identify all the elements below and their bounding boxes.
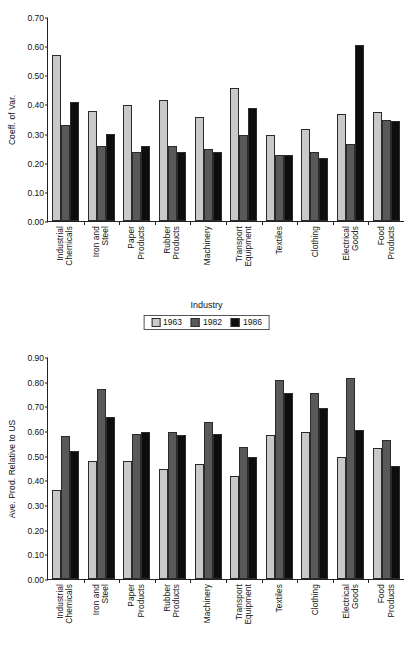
bar-group [48, 18, 84, 221]
y-axis-tick-mark [45, 105, 48, 106]
bar-group [226, 358, 262, 579]
x-axis-category-label-line: Products [172, 226, 180, 260]
y-axis-tick-mark [45, 76, 48, 77]
bar-groups-top [48, 18, 404, 221]
x-axis-category-label-line: Electrical [342, 584, 350, 619]
x-axis-category-label: TransportEquipment [226, 226, 262, 298]
x-axis-category-label-line: Steel [101, 584, 109, 603]
x-axis-title-top: Industry [0, 300, 413, 310]
x-axis-group-separator [226, 579, 227, 583]
bar-1982 [239, 135, 248, 221]
bar-1982 [346, 378, 355, 579]
x-axis-group-separator [190, 579, 191, 583]
x-axis-category-label-line: Textiles [275, 226, 283, 254]
x-axis-category-label: FoodProducts [368, 584, 404, 656]
x-axis-category-label-line: Clothing [311, 226, 319, 257]
x-axis-category-label: RubberProducts [154, 226, 190, 298]
x-axis-category-label: PaperProducts [118, 584, 154, 656]
x-axis-category-label: PaperProducts [118, 226, 154, 298]
x-axis-category-label-line: Iron and [92, 226, 100, 257]
x-axis-category-label-line: Iron and [92, 584, 100, 615]
bar-1982 [346, 144, 355, 221]
y-axis-tick-mark [45, 163, 48, 164]
x-axis-category-label-line: Equipment [244, 226, 252, 267]
y-axis-tick-mark [45, 47, 48, 48]
bar-1982 [382, 120, 391, 221]
x-axis-category-label: Machinery [190, 584, 226, 656]
bar-group [262, 358, 298, 579]
bar-1986 [319, 158, 328, 221]
x-axis-category-label: IndustrialChemicals [47, 584, 83, 656]
x-axis-category-label-line: Products [137, 584, 145, 618]
bar-group [333, 358, 369, 579]
bar-1986 [391, 121, 400, 221]
bar-group [226, 18, 262, 221]
x-axis-group-separator [297, 579, 298, 583]
y-axis-title-bottom: Ave. Prod. Relative to US [7, 420, 17, 519]
x-axis-group-separator [262, 221, 263, 225]
bar-1963 [266, 135, 275, 221]
x-axis-category-label-line: Clothing [311, 584, 319, 615]
x-axis-category-label: Iron andSteel [83, 226, 119, 298]
x-axis-group-separator [155, 221, 156, 225]
x-axis-category-label-line: Steel [101, 226, 109, 245]
y-axis-tick-mark [45, 407, 48, 408]
x-axis-category-label-line: Equipment [244, 584, 252, 625]
bar-group [119, 358, 155, 579]
bar-1982 [97, 146, 106, 221]
bar-1982 [275, 380, 284, 579]
bar-1986 [70, 451, 79, 579]
x-axis-category-label-line: Products [172, 584, 180, 618]
bar-1982 [97, 389, 106, 579]
bar-group [84, 358, 120, 579]
bar-group [190, 18, 226, 221]
bar-group [155, 18, 191, 221]
x-axis-category-label-line: Rubber [163, 226, 171, 254]
x-axis-category-label-line: Industrial [56, 226, 64, 261]
figure-page: Coeff. of Var. 0.000.100.200.300.400.500… [0, 0, 413, 656]
x-axis-category-label: ElectricalGoods [333, 226, 369, 298]
chart-ave-prod-relative-to-us: Ave. Prod. Relative to US 0.000.100.200.… [0, 326, 413, 656]
bar-group [368, 358, 404, 579]
x-axis-group-separator [84, 221, 85, 225]
bar-1986 [70, 102, 79, 221]
bar-1963 [88, 461, 97, 579]
plot-area-bottom: 0.000.100.200.300.400.500.600.700.800.90 [47, 358, 404, 580]
bar-1986 [141, 146, 150, 221]
y-axis-tick-mark [45, 456, 48, 457]
x-axis-category-label-line: Machinery [203, 226, 211, 265]
x-axis-category-label-line: Rubber [163, 584, 171, 612]
x-axis-category-label: ElectricalGoods [333, 584, 369, 656]
x-axis-category-label-line: Products [137, 226, 145, 260]
x-axis-category-label-line: Chemicals [65, 584, 73, 624]
y-axis-title-top: Coeff. of Var. [7, 95, 17, 145]
bar-1963 [159, 469, 168, 579]
x-axis-category-label: Clothing [297, 584, 333, 656]
x-axis-group-separator [84, 579, 85, 583]
x-axis-group-separator [119, 221, 120, 225]
bar-1986 [177, 435, 186, 579]
bar-1986 [213, 152, 222, 221]
x-axis-category-label-line: Industrial [56, 584, 64, 619]
x-axis-group-separator [262, 579, 263, 583]
x-axis-category-label-line: Food [377, 226, 385, 245]
y-axis-tick-mark [45, 18, 48, 19]
bar-1986 [106, 417, 115, 579]
x-axis-category-label: Machinery [190, 226, 226, 298]
x-axis-group-separator [297, 221, 298, 225]
bar-1963 [337, 457, 346, 579]
y-axis-tick-mark [45, 222, 48, 223]
bar-1982 [61, 436, 70, 579]
x-axis-category-label: Iron andSteel [83, 584, 119, 656]
x-axis-group-separator [333, 221, 334, 225]
bar-1982 [310, 393, 319, 579]
x-axis-category-label-line: Food [377, 584, 385, 603]
x-axis-group-separator [119, 579, 120, 583]
x-axis-category-label: Textiles [261, 584, 297, 656]
x-axis-category-label: RubberProducts [154, 584, 190, 656]
x-axis-category-label-line: Transport [235, 584, 243, 620]
bar-1963 [373, 448, 382, 579]
x-axis-category-label-line: Paper [127, 226, 135, 249]
bar-group [297, 358, 333, 579]
x-axis-category-label: Clothing [297, 226, 333, 298]
